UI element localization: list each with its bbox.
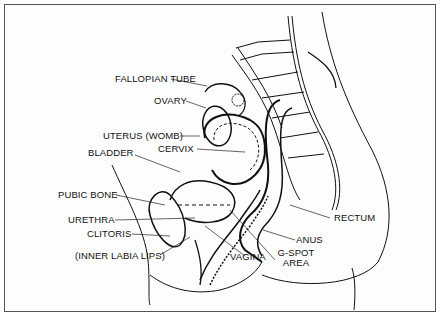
label-urethra: URETHRA — [68, 215, 115, 225]
label-gspot-line2: AREA — [276, 258, 316, 268]
label-cervix: CERVIX — [158, 144, 194, 154]
label-vagina: VAGINA — [230, 252, 266, 262]
label-rectum: RECTUM — [334, 213, 375, 223]
label-inner-labia: (INNER LABIA LIPS) — [75, 251, 165, 261]
label-uterus: UTERUS (WOMB) — [103, 131, 183, 141]
label-pubic-bone: PUBIC BONE — [58, 190, 118, 200]
label-bladder: BLADDER — [88, 148, 134, 158]
label-fallopian-tube: FALLOPIAN TUBE — [115, 74, 196, 84]
anatomy-illustration — [0, 0, 440, 317]
label-ovary: OVARY — [154, 96, 187, 106]
label-anus: ANUS — [296, 235, 323, 245]
label-clitoris: CLITORIS — [87, 229, 131, 239]
